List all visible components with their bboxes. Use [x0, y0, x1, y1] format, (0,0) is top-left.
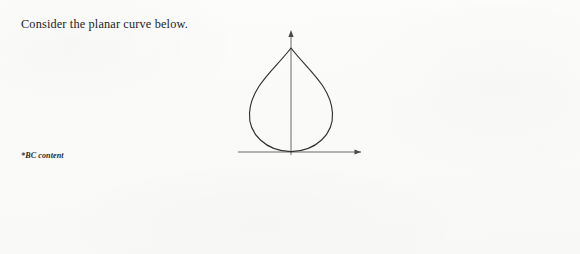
planar-curve-figure — [228, 24, 378, 160]
bc-content-footnote: *BC content — [21, 151, 64, 160]
x-axis — [238, 149, 361, 154]
chapter-navigation-strip: Parametric Functions Polar Functions Vec… — [0, 182, 580, 254]
prompt-text: Consider the planar curve below. — [21, 17, 188, 32]
